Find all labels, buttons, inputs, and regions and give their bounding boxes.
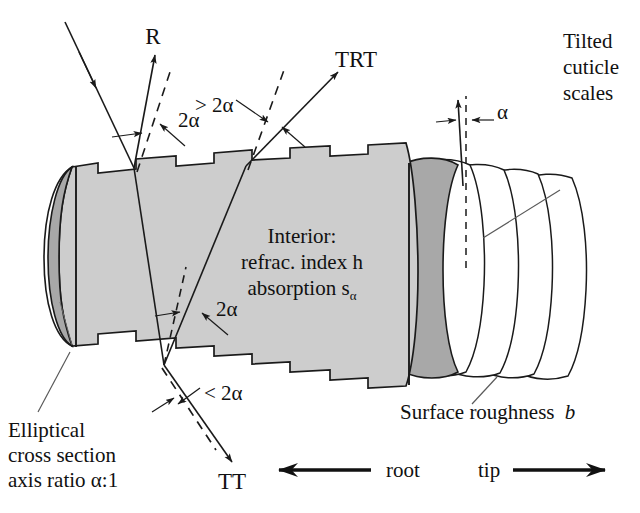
cross-section-line-1: Elliptical	[8, 418, 85, 442]
surface-roughness-symbol: b	[565, 400, 576, 424]
cuticle-line-1: Tilted	[563, 29, 613, 53]
hair-fiber-scattering-diagram: R 2α TRT > 2α 2α < 2α TT α Interi	[0, 0, 640, 513]
cuticle-line-3: scales	[563, 81, 613, 105]
cuticle-line-2: cuticle	[563, 55, 619, 79]
label-interior-angle: 2α	[216, 297, 238, 321]
interior-line-3-sub: α	[350, 288, 357, 303]
surface-roughness-text: Surface roughness b	[400, 400, 575, 424]
tip-label: tip	[478, 458, 500, 482]
label-cuticle-tilt-angle: α	[497, 100, 508, 124]
root-label: root	[386, 458, 420, 482]
label-trt-angle: > 2α	[195, 93, 234, 117]
interior-line-1: Interior:	[268, 224, 337, 248]
interior-line-2: refrac. index h	[241, 250, 363, 274]
label-R: R	[145, 24, 161, 49]
cross-section-line-2: cross section	[8, 443, 116, 467]
cross-section-line-3: axis ratio α:1	[8, 468, 118, 492]
interior-line-3-text: absorption s	[248, 276, 350, 300]
label-TT: TT	[218, 469, 246, 494]
interior-line-3: absorption sα	[248, 276, 357, 303]
label-tt-angle: < 2α	[204, 381, 243, 405]
surface-roughness-label: Surface roughness	[400, 400, 555, 424]
label-TRT: TRT	[335, 47, 377, 72]
